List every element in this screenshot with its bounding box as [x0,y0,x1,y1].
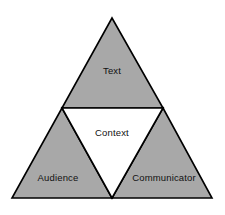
triangle-label-audience: Audience [38,172,79,183]
triangle-label-communicator: Communicator [132,172,196,183]
triangle-label-text: Text [103,65,121,76]
triangle-diagram-canvas: Text Context Audience Communicator [0,0,225,215]
rhetorical-triangle-diagram: Text Context Audience Communicator [0,0,225,215]
triangle-region-text [62,18,163,108]
triangle-label-context: Context [95,127,129,138]
